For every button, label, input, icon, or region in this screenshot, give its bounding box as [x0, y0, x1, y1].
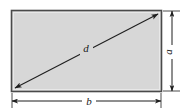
diagonal-length-label: d [83, 42, 89, 54]
figure-container: d a b [0, 0, 188, 112]
height-label: a [162, 49, 174, 55]
width-label: b [86, 95, 92, 107]
rectangle-dimension-diagram: d a b [0, 0, 188, 112]
